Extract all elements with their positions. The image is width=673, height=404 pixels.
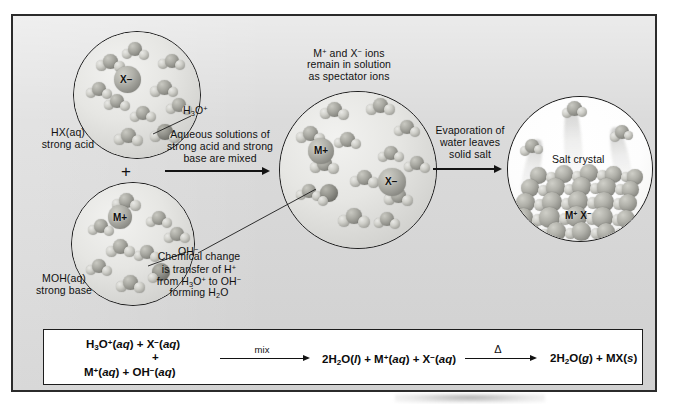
diagram-panel: X− H3O+ HX(aq) strong acid + (11, 14, 657, 392)
equation-arrow2-line (465, 358, 531, 359)
evaporation-arrow-caption-line3: solid salt (427, 148, 513, 161)
m-plus-ion-label: M+ (314, 145, 328, 156)
salt-crystal-circle: Salt crystal (507, 96, 653, 242)
equation-arrow2-head (530, 355, 537, 361)
equation-arrow1-head (303, 355, 310, 361)
mixed-solution-circle: M+ X− (279, 91, 437, 249)
chemical-change-line1: Chemical change (135, 250, 263, 263)
evaporation-arrow-caption-line2: water leaves (427, 136, 513, 149)
hydronium-callout-label: H3O+ (183, 103, 208, 120)
spectator-note-line3: as spectator ions (269, 70, 429, 83)
mix-arrow-caption-line3: base are mixed (158, 152, 282, 165)
base-desc-label: strong base (26, 284, 102, 297)
equation-reactant-line2: M+(aq) + OH−(aq) (84, 364, 176, 379)
reactant-plus-sign: + (121, 163, 131, 180)
evaporation-arrow-caption-line1: Evaporation of (427, 124, 513, 137)
evaporation-arrow-line (433, 168, 495, 170)
salt-crystal-lattice (508, 163, 653, 242)
summary-equation-box: H3O+(aq) + X−(aq) + M+(aq) + OH−(aq) mix… (43, 329, 643, 385)
mix-arrow-caption-line1: Aqueous solutions of (158, 128, 282, 141)
equation-reactant-plus: + (152, 350, 159, 364)
m-plus-ion-label: M+ (113, 212, 127, 223)
equation-arrow2-label: Δ (472, 343, 524, 355)
x-minus-ion-label: X− (385, 176, 398, 187)
spectator-note-line2: remain in solution (269, 58, 429, 71)
crystal-ion-labels: M+ X− (565, 210, 591, 221)
mix-arrow-line (165, 170, 263, 172)
mix-arrow-head (262, 167, 270, 175)
equation-product-final: 2H2O(g) + MX(s) (550, 351, 637, 369)
evaporation-arrow-head (494, 165, 502, 173)
base-name-label: MOH(aq) (26, 272, 102, 285)
chemical-change-line4: forming H2O (135, 286, 263, 302)
acid-name-label: HX(aq) (33, 126, 103, 139)
equation-arrow1-label: mix (232, 344, 292, 355)
mix-arrow-caption-line2: strong acid and strong (158, 140, 282, 153)
page-smudge-artifact (395, 394, 545, 403)
equation-product-mid: 2H2O(l) + M+(aq) + X−(aq) (322, 351, 456, 370)
x-minus-ion-label: X− (120, 74, 133, 85)
equation-arrow1-line (220, 358, 304, 359)
acid-desc-label: strong acid (33, 138, 103, 151)
figure-root: X− H3O+ HX(aq) strong acid + (0, 0, 673, 404)
equation-reactant-line1: H3O+(aq) + X−(aq) (86, 336, 180, 355)
